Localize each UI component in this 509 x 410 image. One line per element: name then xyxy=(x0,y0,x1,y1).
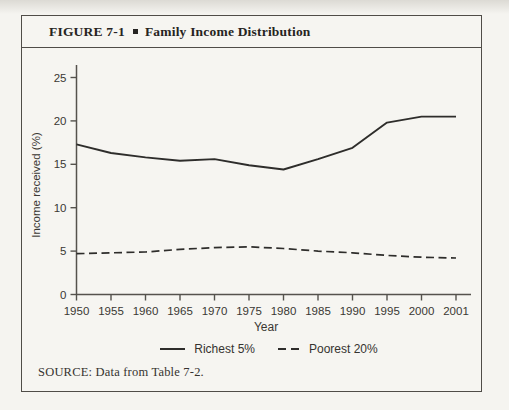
x-tick-label: 1980 xyxy=(271,305,297,317)
y-tick-label: 0 xyxy=(60,289,66,301)
x-tick-label: 1960 xyxy=(133,305,159,317)
x-tick-label: 1970 xyxy=(202,305,228,317)
figure-label: FIGURE 7-1 xyxy=(49,24,125,40)
legend-label-richest: Richest 5% xyxy=(194,342,255,356)
x-tick-label: 1975 xyxy=(236,305,262,317)
figure-header: FIGURE 7-1 Family Income Distribution xyxy=(22,16,481,48)
y-axis-title: Income received (%) xyxy=(30,132,42,238)
source-note: SOURCE: Data from Table 7-2. xyxy=(38,365,481,380)
chart-legend: Richest 5% Poorest 20% xyxy=(22,341,481,357)
x-tick-label: 2001 xyxy=(443,305,469,317)
y-tick-label: 15 xyxy=(54,158,67,170)
x-tick-label: 1950 xyxy=(64,305,90,317)
y-tick-label: 5 xyxy=(60,245,66,257)
series-line-richest-5- xyxy=(77,117,457,170)
x-tick-label: 1990 xyxy=(340,305,366,317)
figure-box: FIGURE 7-1 Family Income Distribution 05… xyxy=(21,15,482,392)
y-tick-label: 25 xyxy=(54,72,67,84)
y-tick-label: 20 xyxy=(54,115,67,127)
legend-item-poorest: Poorest 20% xyxy=(277,342,378,356)
solid-line-sample-icon xyxy=(159,346,186,352)
dashed-line-sample-icon xyxy=(277,346,301,352)
x-tick-label: 1965 xyxy=(167,305,193,317)
chart-area: 0510152025195019551960196519701975198019… xyxy=(26,55,481,337)
line-chart: 0510152025195019551960196519701975198019… xyxy=(26,55,481,337)
y-tick-label: 10 xyxy=(54,202,67,214)
legend-label-poorest: Poorest 20% xyxy=(309,342,378,356)
legend-item-richest: Richest 5% xyxy=(159,342,255,356)
scan-shading xyxy=(0,0,509,14)
x-axis-title: Year xyxy=(254,320,278,334)
series-line-poorest-20- xyxy=(77,247,457,258)
square-bullet-icon xyxy=(133,29,138,34)
x-tick-label: 1995 xyxy=(374,305,400,317)
figure-title: Family Income Distribution xyxy=(145,24,311,40)
x-tick-label: 1955 xyxy=(98,305,124,317)
x-tick-label: 1985 xyxy=(305,305,331,317)
x-tick-label: 2000 xyxy=(409,305,435,317)
